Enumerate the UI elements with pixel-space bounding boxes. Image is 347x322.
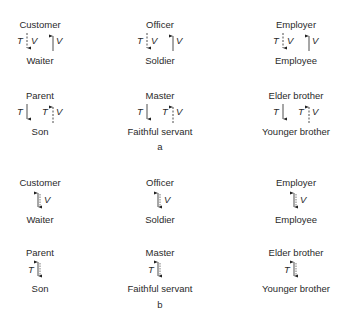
label-elder-brother: Elder brother bbox=[269, 247, 324, 258]
symbol-v: V bbox=[300, 194, 306, 205]
symbol-v: V bbox=[31, 35, 37, 46]
double-arrow-icon bbox=[34, 189, 44, 211]
label-employee: Employee bbox=[275, 55, 317, 66]
label-master: Master bbox=[145, 90, 174, 101]
solid-down-arrow-icon bbox=[278, 103, 288, 123]
symbol-v: V bbox=[312, 35, 318, 46]
symbol-t: T bbox=[28, 264, 34, 275]
label-soldier: Soldier bbox=[145, 55, 175, 66]
symbol-v: V bbox=[176, 35, 182, 46]
symbol-v: V bbox=[44, 194, 50, 205]
label-waiter: Waiter bbox=[26, 214, 53, 225]
label-officer: Officer bbox=[146, 19, 174, 30]
label-younger-brother: Younger brother bbox=[262, 283, 330, 294]
label-master: Master bbox=[145, 247, 174, 258]
solid-down-arrow-icon bbox=[142, 103, 152, 123]
label-parent: Parent bbox=[26, 90, 54, 101]
symbol-t: T bbox=[284, 264, 290, 275]
label-waiter: Waiter bbox=[26, 55, 53, 66]
label-officer: Officer bbox=[146, 177, 174, 188]
symbol-v: V bbox=[164, 194, 170, 205]
symbol-v: V bbox=[287, 35, 293, 46]
label-son: Son bbox=[32, 283, 49, 294]
label-employer: Employer bbox=[276, 19, 316, 30]
symbol-v: V bbox=[312, 106, 318, 117]
panel-label-a: a bbox=[157, 141, 162, 152]
symbol-t: T bbox=[298, 106, 304, 117]
double-arrow-icon bbox=[290, 189, 300, 211]
label-elder-brother: Elder brother bbox=[269, 90, 324, 101]
double-arrow-icon bbox=[154, 258, 164, 280]
label-parent: Parent bbox=[26, 247, 54, 258]
panel-label-b: b bbox=[157, 299, 162, 310]
label-customer: Customer bbox=[19, 177, 60, 188]
symbol-t: T bbox=[148, 264, 154, 275]
double-arrow-icon bbox=[34, 258, 44, 280]
label-employer: Employer bbox=[276, 177, 316, 188]
label-customer: Customer bbox=[19, 19, 60, 30]
symbol-t: T bbox=[42, 106, 48, 117]
label-faithful-servant: Faithful servant bbox=[128, 283, 193, 294]
label-soldier: Soldier bbox=[145, 214, 175, 225]
label-younger-brother: Younger brother bbox=[262, 126, 330, 137]
label-employee: Employee bbox=[275, 214, 317, 225]
symbol-v: V bbox=[56, 35, 62, 46]
label-son: Son bbox=[32, 126, 49, 137]
double-arrow-icon bbox=[154, 189, 164, 211]
symbol-v: V bbox=[56, 106, 62, 117]
solid-down-arrow-icon bbox=[22, 103, 32, 123]
symbol-v: V bbox=[151, 35, 157, 46]
symbol-t: T bbox=[162, 106, 168, 117]
double-arrow-icon bbox=[290, 258, 300, 280]
label-faithful-servant: Faithful servant bbox=[128, 126, 193, 137]
symbol-v: V bbox=[176, 106, 182, 117]
